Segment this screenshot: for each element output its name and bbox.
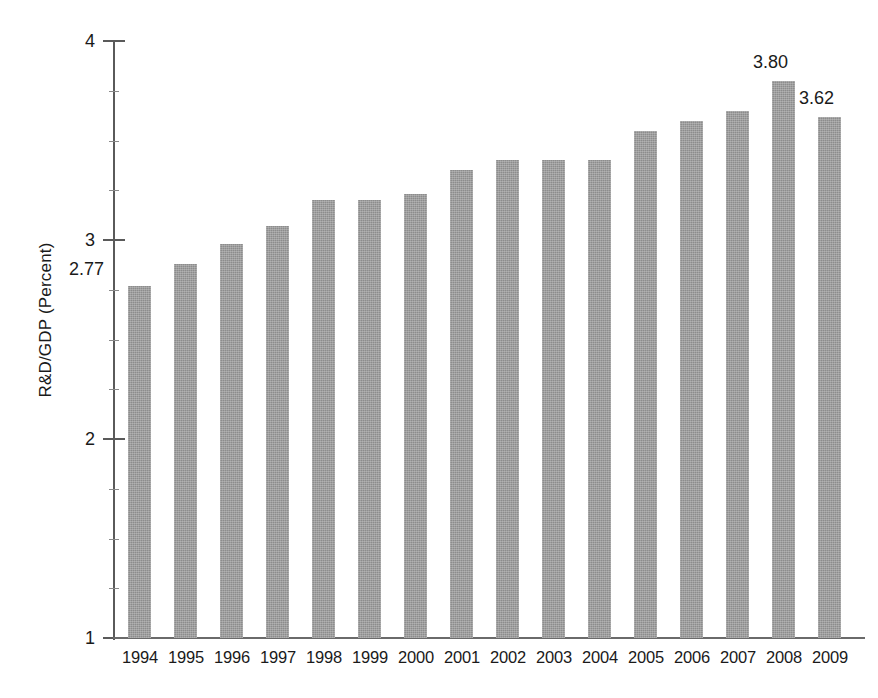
bar-1998[interactable] — [312, 200, 335, 638]
bar-2002[interactable] — [496, 160, 519, 638]
bar-slot-1994 — [117, 36, 163, 638]
bar-slot-1998 — [301, 36, 347, 638]
bar-1999[interactable] — [358, 200, 381, 638]
bar-slot-2007 — [715, 36, 761, 638]
bar-2004[interactable] — [588, 160, 611, 638]
y-axis-tick-label: 3 — [55, 231, 95, 249]
bar-1997[interactable] — [266, 226, 289, 638]
y-axis-tick-label: 2 — [55, 430, 95, 448]
bar-2000[interactable] — [404, 194, 427, 638]
bar-slot-2004 — [577, 36, 623, 638]
x-axis-tick-label-2007: 2007 — [715, 649, 761, 666]
bar-slot-1996 — [209, 36, 255, 638]
bar-1995[interactable] — [174, 264, 197, 638]
y-axis-tick-label: 1 — [55, 629, 95, 647]
x-axis-tick-label-2008: 2008 — [761, 649, 807, 666]
plot-area — [113, 36, 865, 638]
bar-1994[interactable] — [128, 286, 151, 638]
x-axis-tick-label-1997: 1997 — [255, 649, 301, 666]
bar-slot-1999 — [347, 36, 393, 638]
y-axis-title: R&D/GDP (Percent) — [36, 200, 56, 440]
bar-slot-2006 — [669, 36, 715, 638]
x-axis-tick-label-1999: 1999 — [347, 649, 393, 666]
bar-2007[interactable] — [726, 111, 749, 638]
x-axis-tick-label-1995: 1995 — [163, 649, 209, 666]
bar-slot-2001 — [439, 36, 485, 638]
y-axis-tick-label: 4 — [55, 32, 95, 50]
x-axis-tick-label-1996: 1996 — [209, 649, 255, 666]
x-axis-tick-label-2006: 2006 — [669, 649, 715, 666]
bar-slot-1997 — [255, 36, 301, 638]
bar-slot-2008 — [761, 36, 807, 638]
bar-slot-2003 — [531, 36, 577, 638]
bar-2008[interactable] — [772, 81, 795, 638]
x-axis-tick-label-1998: 1998 — [301, 649, 347, 666]
x-axis-tick-label-2003: 2003 — [531, 649, 577, 666]
x-axis-tick-label-2000: 2000 — [393, 649, 439, 666]
bar-value-label-1994: 2.77 — [69, 260, 104, 278]
bar-1996[interactable] — [220, 244, 243, 638]
x-axis-tick-label-2001: 2001 — [439, 649, 485, 666]
bar-slot-1995 — [163, 36, 209, 638]
x-axis-tick-label-2009: 2009 — [807, 649, 853, 666]
bar-2005[interactable] — [634, 131, 657, 638]
bar-value-label-2009: 3.62 — [799, 89, 834, 107]
bar-chart-figure: R&D/GDP (Percent) 1234 19941995199619971… — [0, 0, 878, 698]
bar-value-label-2008: 3.80 — [753, 53, 788, 71]
bar-slot-2000 — [393, 36, 439, 638]
bar-slot-2005 — [623, 36, 669, 638]
bar-2003[interactable] — [542, 160, 565, 638]
bar-slot-2009 — [807, 36, 853, 638]
bar-2001[interactable] — [450, 170, 473, 638]
bar-2009[interactable] — [818, 117, 841, 638]
bar-slot-2002 — [485, 36, 531, 638]
x-axis-tick-label-1994: 1994 — [117, 649, 163, 666]
bar-2006[interactable] — [680, 121, 703, 638]
x-axis-tick-label-2005: 2005 — [623, 649, 669, 666]
x-axis-tick-label-2002: 2002 — [485, 649, 531, 666]
x-axis-tick-label-2004: 2004 — [577, 649, 623, 666]
